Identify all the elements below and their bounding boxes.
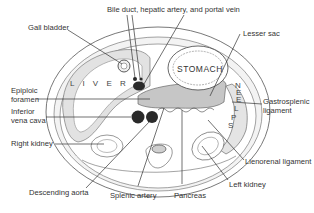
label-gall-bladder: Gall bladder xyxy=(28,23,69,32)
label-pancreas: Pancreas xyxy=(174,191,206,200)
label-inferior-vena-cava-2: vena cava xyxy=(11,116,46,125)
label-bile-duct: Bile duct, hepatic artery, and portal ve… xyxy=(107,5,240,14)
organ-label-spleen-l: L xyxy=(234,104,241,113)
right-kidney xyxy=(91,135,123,157)
organ-label-stomach: STOMACH xyxy=(177,64,223,74)
label-descending-aorta: Descending aorta xyxy=(29,188,89,197)
label-epiploic-foramen-1: Epiploic xyxy=(11,86,38,95)
label-right-kidney: Right kidney xyxy=(11,139,53,148)
label-epiploic-foramen-2: foramen xyxy=(11,95,39,104)
label-gastrosplenic-2: ligament xyxy=(263,106,293,115)
descending-aorta xyxy=(146,111,158,123)
organ-label-liver: L I V E R xyxy=(70,79,129,88)
organ-label-spleen-p: P xyxy=(231,113,239,122)
portal-vein xyxy=(133,82,145,91)
organ-label-spleen-n: N xyxy=(235,81,244,90)
label-lienorenal: Lienorenal ligament xyxy=(245,157,312,166)
label-left-kidney: Left kidney xyxy=(229,180,266,189)
vertebral-body xyxy=(152,145,166,153)
label-gastrosplenic-1: Gastrosplenic xyxy=(263,97,310,106)
label-splenic-artery: Splenic artery xyxy=(110,191,157,200)
inferior-vena-cava xyxy=(132,111,145,124)
label-inferior-vena-cava-1: Inferior xyxy=(11,107,35,116)
abdominal-cross-section-diagram: L I V E R STOMACH S P L E E N Gall bladd… xyxy=(0,0,314,213)
label-lesser-sac: Lesser sac xyxy=(243,29,280,38)
organ-label-spleen-s: S xyxy=(228,121,236,130)
